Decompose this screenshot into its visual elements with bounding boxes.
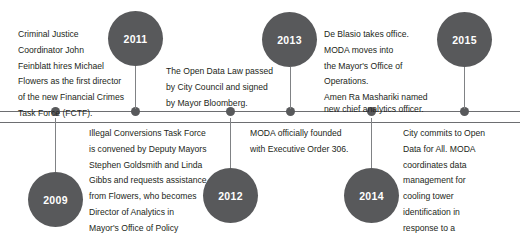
note-open-data-law-line-3: by Mayor Bloomberg. <box>166 98 286 110</box>
note-moda-founded-line-2: with Executive Order 306. <box>250 144 370 156</box>
note-illegal-conversions-line-4: Gibbs and requests assistance <box>89 175 217 187</box>
note-open-data-for-all-line-7: response to a <box>403 223 507 235</box>
year-label-2013: 2013 <box>277 34 302 46</box>
note-deblasio-line-1: De Blasio takes office. <box>324 29 446 41</box>
stem-2012 <box>230 118 231 170</box>
note-illegal-conversions-line-3: Stephen Goldsmith and Linda <box>89 160 217 172</box>
note-open-data-law-line-2: by City Council and signed <box>166 82 286 94</box>
axis-line-bottom <box>0 122 520 123</box>
year-circle-2009[interactable]: 2009 <box>28 172 83 227</box>
note-fctf-line-2: Coordinator John <box>18 45 138 57</box>
note-illegal-conversions-line-2: is convened by Deputy Mayors <box>89 144 217 156</box>
year-label-2009: 2009 <box>43 194 68 206</box>
note-open-data-law: The Open Data Law passed by City Council… <box>166 66 286 109</box>
stem-2015 <box>464 67 465 109</box>
note-illegal-conversions-line-5: from Flowers, who becomes <box>89 191 217 203</box>
note-moda-founded: MODA officially founded with Executive O… <box>250 128 370 156</box>
note-open-data-for-all-line-4: management for <box>403 175 507 187</box>
note-fctf-line-3: Feinblatt hires Michael <box>18 61 138 73</box>
note-open-data-for-all-line-3: coordinates data <box>403 160 507 172</box>
note-illegal-conversions: Illegal Conversions Task Force is conven… <box>89 128 217 238</box>
note-fctf-line-6: Task Force (FCTF). <box>18 108 138 120</box>
note-fctf: Criminal Justice Coordinator John Feinbl… <box>18 29 138 120</box>
timeline-infographic: 2011 2013 2015 2009 2012 2014 Criminal J… <box>0 0 520 238</box>
note-open-data-for-all-line-1: City commits to Open <box>403 128 507 140</box>
note-open-data-for-all-line-5: cooling tower <box>403 191 507 203</box>
note-illegal-conversions-line-7: Mayor's Office of Policy <box>89 223 217 235</box>
note-deblasio-line-2: MODA moves into <box>324 45 446 57</box>
note-open-data-for-all-line-6: identification in <box>403 207 507 219</box>
note-deblasio-line-5: Amen Ra Mashariki named <box>324 92 446 104</box>
note-fctf-line-5: of the new Financial Crimes <box>18 92 138 104</box>
note-deblasio-line-6: new chief analytics officer. <box>324 104 446 116</box>
note-deblasio: De Blasio takes office. MODA moves into … <box>324 29 446 116</box>
stem-2013 <box>290 67 291 109</box>
note-deblasio-line-4: Operations. <box>324 76 446 88</box>
stem-2009 <box>55 118 56 174</box>
note-deblasio-line-3: the Mayor's Office of <box>324 61 446 73</box>
year-circle-2014[interactable]: 2014 <box>344 168 399 223</box>
year-circle-2013[interactable]: 2013 <box>262 12 317 67</box>
note-illegal-conversions-line-6: Director of Analytics in <box>89 207 217 219</box>
note-moda-founded-line-1: MODA officially founded <box>250 128 370 140</box>
year-label-2014: 2014 <box>359 190 384 202</box>
note-open-data-for-all: City commits to Open Data for All. MODA … <box>403 128 507 238</box>
note-fctf-line-1: Criminal Justice <box>18 29 138 41</box>
note-illegal-conversions-line-1: Illegal Conversions Task Force <box>89 128 217 140</box>
stem-2014 <box>371 118 372 170</box>
note-fctf-line-4: Flowers as the first director <box>18 76 138 88</box>
year-label-2015: 2015 <box>452 34 477 46</box>
note-open-data-law-line-1: The Open Data Law passed <box>166 66 286 78</box>
note-open-data-for-all-line-2: Data for All. MODA <box>403 144 507 156</box>
year-label-2012: 2012 <box>218 190 243 202</box>
